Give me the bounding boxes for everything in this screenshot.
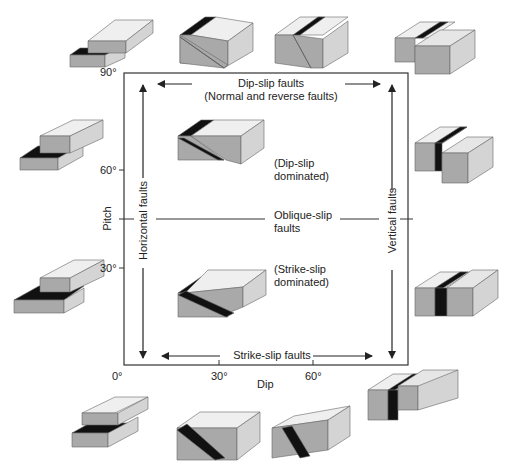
x-tick-label-30: 30° xyxy=(211,370,228,383)
dipslip-dominated-sublabel: dominated) xyxy=(274,170,329,183)
y-tick-label-90: 90° xyxy=(100,66,117,79)
block-top-vertical-dipslip xyxy=(395,22,475,74)
block-bottom-60-strikeslip xyxy=(272,406,350,458)
block-top-horizontal-dipslip xyxy=(70,20,153,67)
dipslip-dominated-label: (Dip-slip xyxy=(274,157,314,170)
block-center-strikeslip-dominated xyxy=(178,270,266,317)
strikeslip-dominated-sublabel: dominated) xyxy=(274,276,329,289)
block-right-60-vertical xyxy=(415,127,493,183)
y-tick-label-30: 30° xyxy=(100,262,117,275)
x-tick-label-60: 60° xyxy=(305,370,322,383)
strikeslip-faults-label: Strike-slip faults xyxy=(222,349,322,362)
y-axis-label: Pitch xyxy=(101,206,114,230)
oblique-slip-sublabel: faults xyxy=(274,222,300,235)
dipslip-faults-sublabel: (Normal and reverse faults) xyxy=(186,90,356,103)
block-bottom-vertical-strikeslip xyxy=(368,370,458,420)
vertical-faults-label: Vertical faults xyxy=(386,185,399,257)
block-bottom-horizontal-strikeslip xyxy=(72,397,148,447)
block-left-60-horizontal xyxy=(20,120,103,170)
block-center-dipslip-dominated xyxy=(178,120,264,164)
dipslip-faults-label: Dip-slip faults xyxy=(206,77,336,90)
oblique-slip-label: Oblique-slip xyxy=(274,209,332,222)
x-tick-label-0: 0° xyxy=(112,370,123,383)
block-left-30-horizontal xyxy=(14,260,104,313)
block-top-30-dipslip xyxy=(180,17,253,68)
block-bottom-30-strikeslip xyxy=(177,412,260,460)
strikeslip-dominated-label: (Strike-slip xyxy=(274,263,326,276)
block-top-60-dipslip xyxy=(275,17,348,68)
diagram-canvas xyxy=(0,0,509,464)
horizontal-faults-label: Horizontal faults xyxy=(137,175,150,267)
block-right-30-vertical xyxy=(415,270,498,316)
x-axis-label: Dip xyxy=(257,378,274,391)
y-tick-label-60: 60° xyxy=(100,164,117,177)
fault-classification-diagram: 90° 60° 30° 0° 30° 60° Dip Pitch Dip-sli… xyxy=(0,0,509,464)
